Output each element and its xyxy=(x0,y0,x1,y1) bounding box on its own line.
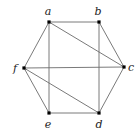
edge-c-d xyxy=(99,67,124,113)
vertex-e xyxy=(47,111,50,114)
vertex-label-a: a xyxy=(45,5,52,18)
vertex-b xyxy=(97,20,100,23)
edge-e-f xyxy=(24,68,49,113)
vertex-label-c: c xyxy=(128,61,134,74)
vertex-label-d: d xyxy=(95,118,102,131)
vertex-label-b: b xyxy=(94,5,101,18)
edge-b-c xyxy=(99,22,124,67)
edges-layer xyxy=(24,22,124,113)
vertex-label-e: e xyxy=(45,118,52,131)
vertex-f xyxy=(22,66,25,69)
graph-diagram: abcdef xyxy=(0,0,137,136)
vertex-c xyxy=(122,65,125,68)
vertex-d xyxy=(97,111,100,114)
edge-f-a xyxy=(24,22,49,68)
vertex-a xyxy=(47,20,50,23)
edge-a-c xyxy=(49,22,124,67)
edge-f-d xyxy=(24,68,99,113)
edge-f-c xyxy=(24,67,124,68)
vertex-label-f: f xyxy=(12,62,19,75)
